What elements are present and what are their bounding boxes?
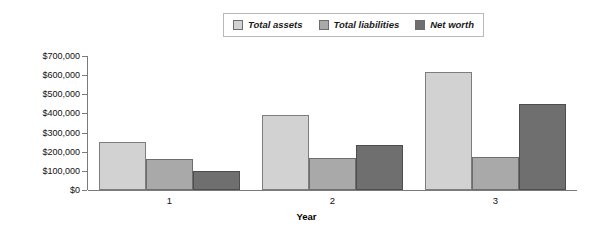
y-axis-label: $600,000 — [18, 71, 80, 80]
x-axis-title: Year — [0, 212, 613, 222]
y-axis-tick — [82, 133, 87, 134]
x-axis-label-2: 2 — [293, 196, 373, 206]
legend-item-net-worth[interactable]: Net worth — [415, 20, 474, 30]
y-axis-tick — [82, 75, 87, 76]
bar-total-assets-year-3[interactable] — [425, 72, 472, 190]
y-axis-tick — [82, 94, 87, 95]
legend-swatch-icon-net-worth — [415, 20, 425, 30]
y-axis-label: $700,000 — [18, 52, 80, 61]
bar-net-worth-year-2[interactable] — [356, 145, 403, 190]
chart-legend: Total assets Total liabilities Net worth — [223, 13, 484, 37]
y-axis-label: $200,000 — [18, 147, 80, 156]
x-axis-label-1: 1 — [130, 196, 210, 206]
y-axis-tick — [82, 190, 87, 191]
y-axis-label: $100,000 — [18, 166, 80, 175]
legend-label-total-assets: Total assets — [248, 20, 303, 30]
bar-total-assets-year-2[interactable] — [262, 115, 309, 190]
legend-label-total-liabilities: Total liabilities — [334, 20, 400, 30]
x-axis-line — [88, 190, 577, 191]
legend-item-total-liabilities[interactable]: Total liabilities — [319, 20, 400, 30]
y-axis-tick — [82, 56, 87, 57]
y-axis-label: $500,000 — [18, 90, 80, 99]
y-axis-tick — [82, 113, 87, 114]
y-axis-tick — [82, 152, 87, 153]
y-axis-label: $400,000 — [18, 109, 80, 118]
bar-chart: Total assets Total liabilities Net worth… — [0, 0, 613, 236]
bar-group-year-1 — [99, 56, 240, 190]
bar-net-worth-year-1[interactable] — [193, 171, 240, 190]
bar-net-worth-year-3[interactable] — [519, 104, 566, 190]
bar-total-liabilities-year-1[interactable] — [146, 159, 193, 190]
plot-area — [88, 56, 577, 190]
bar-group-year-2 — [262, 56, 403, 190]
legend-swatch-icon-total-liabilities — [319, 20, 329, 30]
bar-total-assets-year-1[interactable] — [99, 142, 146, 190]
y-axis-tick — [82, 171, 87, 172]
bar-group-year-3 — [425, 56, 566, 190]
legend-swatch-icon-total-assets — [233, 20, 243, 30]
bar-total-liabilities-year-3[interactable] — [472, 157, 519, 190]
bar-total-liabilities-year-2[interactable] — [309, 158, 356, 190]
x-axis-label-3: 3 — [456, 196, 536, 206]
legend-item-total-assets[interactable]: Total assets — [233, 20, 303, 30]
legend-label-net-worth: Net worth — [430, 20, 474, 30]
y-axis-label: $300,000 — [18, 128, 80, 137]
y-axis-label: $0 — [18, 186, 80, 195]
